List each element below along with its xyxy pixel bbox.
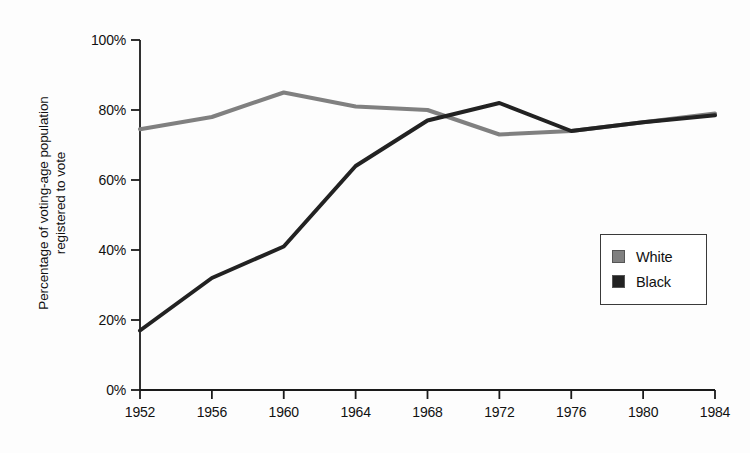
chart-container: Percentage of voting-age population regi… [0, 0, 750, 453]
y-axis-tick-label: 20% [70, 312, 126, 328]
legend-item: Black [612, 269, 692, 294]
y-axis-tick-label: 60% [70, 172, 126, 188]
x-axis-tick-label: 1964 [326, 404, 386, 420]
series-line-white [140, 93, 715, 135]
y-axis-title: Percentage of voting-age population regi… [35, 33, 69, 373]
y-axis-tick-label: 40% [70, 242, 126, 258]
axis-lines [131, 40, 715, 399]
x-axis-tick-label: 1980 [613, 404, 673, 420]
x-axis-tick-label: 1984 [685, 404, 745, 420]
x-axis-tick-label: 1972 [469, 404, 529, 420]
y-axis-tick-label: 0% [70, 382, 126, 398]
chart-legend: WhiteBlack [600, 234, 707, 305]
legend-swatch-icon [612, 250, 625, 263]
legend-swatch-icon [612, 275, 625, 288]
x-axis-tick-label: 1960 [254, 404, 314, 420]
y-axis-tick-label: 100% [70, 32, 126, 48]
y-axis-tick-label: 80% [70, 102, 126, 118]
legend-label: White [636, 249, 673, 265]
x-axis-tick-label: 1968 [398, 404, 458, 420]
legend-item: White [612, 244, 692, 269]
x-axis-tick-label: 1956 [182, 404, 242, 420]
x-axis-tick-label: 1952 [110, 404, 170, 420]
x-axis-tick-label: 1976 [541, 404, 601, 420]
legend-label: Black [636, 274, 671, 290]
